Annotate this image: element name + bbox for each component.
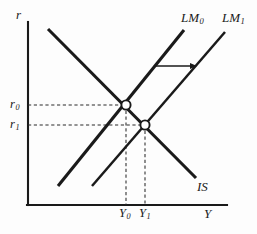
equilibrium-point-1 — [140, 120, 149, 129]
lm-shift-arrow — [155, 63, 197, 69]
tick-label-y1: Y1 — [139, 207, 151, 222]
tick-label-y0-text: Y — [119, 206, 126, 220]
tick-label-r1: r1 — [10, 118, 20, 133]
y-axis-label: r — [16, 8, 21, 21]
lm0-curve — [58, 30, 184, 186]
lm1-curve — [92, 32, 225, 186]
is-curve-label: IS — [197, 180, 208, 193]
tick-label-y0: Y0 — [119, 207, 131, 222]
lm1-curve-label-text: LM — [222, 10, 240, 25]
tick-label-r1-sub: 1 — [15, 123, 20, 132]
tick-label-y1-text: Y — [139, 206, 146, 220]
equilibrium-point-0 — [121, 100, 130, 109]
tick-label-r0: r0 — [10, 98, 20, 113]
lm0-curve-label: LM0 — [181, 11, 204, 26]
x-axis-label: Y — [204, 207, 211, 220]
lm0-curve-label-text: LM — [181, 10, 199, 25]
tick-label-y0-sub: 0 — [126, 212, 131, 221]
lm0-curve-label-sub: 0 — [199, 16, 204, 26]
is-lm-diagram: r Y r0 r1 Y0 Y1 LM0 LM1 IS — [0, 0, 257, 234]
tick-label-r0-sub: 0 — [15, 103, 20, 112]
tick-label-y1-sub: 1 — [146, 212, 151, 221]
lm1-curve-label: LM1 — [222, 11, 245, 26]
lm1-curve-label-sub: 1 — [240, 16, 245, 26]
diagram-canvas — [0, 0, 257, 234]
